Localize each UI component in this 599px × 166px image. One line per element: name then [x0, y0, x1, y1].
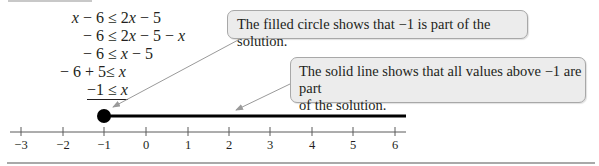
pointer-arrow-circle [113, 39, 240, 107]
pointer-arrow-line [236, 84, 290, 110]
tick-label: −2 [51, 138, 75, 153]
tick-label: −3 [9, 138, 33, 153]
tick-label: −1 [92, 138, 116, 153]
tick-label: 3 [258, 138, 282, 153]
tick-label: 4 [300, 138, 324, 153]
bottom-rule [7, 162, 595, 164]
tick-label: 5 [341, 138, 365, 153]
tick-label: 2 [217, 138, 241, 153]
tick-label: 1 [176, 138, 200, 153]
tick-label: 0 [134, 138, 158, 153]
tick-label: 6 [383, 138, 407, 153]
filled-circle-point [97, 109, 111, 123]
